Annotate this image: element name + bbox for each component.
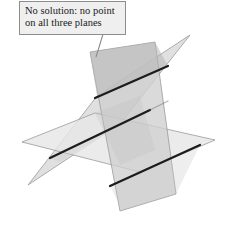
callout-box: No solution: no point on all three plane… [19, 1, 126, 35]
callout-line-2: on all three planes [25, 17, 120, 29]
callout-line-1: No solution: no point [25, 5, 120, 17]
three-planes-figure: No solution: no point on all three plane… [0, 0, 231, 225]
